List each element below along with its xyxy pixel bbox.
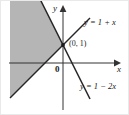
y-axis-label: y	[53, 4, 57, 13]
intersection-point-label: (0, 1)	[69, 40, 86, 48]
y-axis-arrowhead	[60, 5, 67, 12]
line2-equation-label: y = 1 − 2x	[80, 82, 116, 91]
graph-figure: y x 0 (0, 1) y = 1 + x y = 1 − 2x	[0, 0, 129, 115]
origin-label: 0	[55, 65, 60, 74]
line1-equation-label: y = 1 + x	[84, 18, 116, 27]
intersection-point-dot	[61, 43, 65, 47]
x-axis-label: x	[117, 65, 121, 74]
